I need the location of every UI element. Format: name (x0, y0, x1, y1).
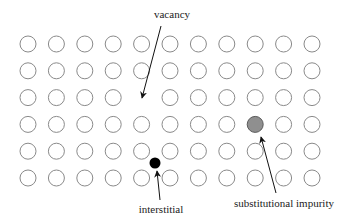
lattice-atom (48, 170, 64, 186)
lattice-atom (48, 36, 64, 52)
lattice-atom (190, 63, 206, 79)
lattice-atom (20, 170, 36, 186)
lattice-atom (134, 36, 150, 52)
lattice-atom (134, 116, 150, 132)
lattice-atom (219, 90, 235, 106)
lattice-defects-diagram: vacancy interstitial substitutional impu… (0, 0, 350, 224)
lattice-atom (48, 90, 64, 106)
lattice-atom (105, 170, 121, 186)
lattice-atom (134, 143, 150, 159)
lattice-atom (247, 170, 263, 186)
lattice-grid (20, 36, 320, 186)
lattice-atom (276, 116, 292, 132)
lattice-atom (105, 116, 121, 132)
interstitial-label: interstitial (139, 203, 184, 215)
lattice-atom (247, 36, 263, 52)
lattice-atom (20, 63, 36, 79)
lattice-atom (190, 90, 206, 106)
lattice-atom (304, 116, 320, 132)
lattice-atom (304, 90, 320, 106)
lattice-atom (48, 63, 64, 79)
lattice-atom (276, 63, 292, 79)
lattice-atom (77, 116, 93, 132)
lattice-atom (276, 170, 292, 186)
lattice-atom (219, 143, 235, 159)
lattice-atom (77, 143, 93, 159)
interstitial-atom (150, 158, 161, 169)
lattice-atom (276, 90, 292, 106)
lattice-atom (162, 170, 178, 186)
lattice-atom (190, 116, 206, 132)
lattice-atom (190, 36, 206, 52)
lattice-atom (219, 170, 235, 186)
lattice-atom (20, 116, 36, 132)
lattice-atom (162, 36, 178, 52)
lattice-atom (48, 116, 64, 132)
substitutional-arrow (261, 137, 276, 193)
lattice-atom (77, 170, 93, 186)
lattice-atom (77, 90, 93, 106)
interstitial-arrow (157, 171, 160, 200)
lattice-atom (190, 143, 206, 159)
lattice-atom (219, 36, 235, 52)
lattice-atom (190, 170, 206, 186)
lattice-atom (105, 143, 121, 159)
lattice-atom (304, 63, 320, 79)
lattice-atom (247, 90, 263, 106)
lattice-atom (105, 63, 121, 79)
substitutional-impurity-atom (247, 116, 263, 132)
lattice-atom (162, 143, 178, 159)
lattice-atom (162, 63, 178, 79)
lattice-atom (77, 63, 93, 79)
lattice-atom (219, 116, 235, 132)
lattice-atom (219, 63, 235, 79)
lattice-atom (105, 36, 121, 52)
lattice-atom (304, 143, 320, 159)
lattice-atom (134, 170, 150, 186)
lattice-atom (162, 116, 178, 132)
lattice-atom (247, 63, 263, 79)
lattice-atom (105, 90, 121, 106)
lattice-atom (20, 143, 36, 159)
vacancy-label: vacancy (154, 8, 191, 20)
lattice-atom (247, 143, 263, 159)
lattice-atom (276, 36, 292, 52)
lattice-atom (304, 36, 320, 52)
lattice-atom (276, 143, 292, 159)
substitutional-impurity-label: substitutional impurity (234, 197, 334, 209)
lattice-atom (304, 170, 320, 186)
lattice-atom (20, 36, 36, 52)
lattice-atom (162, 90, 178, 106)
lattice-atom (77, 36, 93, 52)
lattice-atom (20, 90, 36, 106)
lattice-atom (48, 143, 64, 159)
